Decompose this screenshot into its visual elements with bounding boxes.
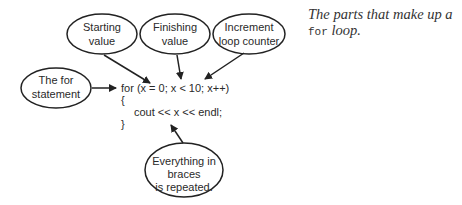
bubble-starting-value: Starting value [67, 14, 137, 54]
code-line-open-brace: { [121, 94, 125, 106]
figure-caption: The parts that make up a for loop. [308, 6, 458, 40]
bubble-label: value [89, 35, 115, 47]
bubble-label: loop counter [219, 35, 280, 47]
bubble-increment: Increment loop counter [213, 14, 285, 54]
bubble-label: Starting [83, 21, 121, 33]
bubble-label: Finishing [153, 21, 197, 33]
bubble-label: The for [39, 74, 74, 86]
bubble-label: braces [167, 168, 201, 180]
code-line-close-brace: } [121, 118, 125, 130]
bubble-finishing-value: Finishing value [140, 14, 210, 54]
bubble-for-statement: The for statement [21, 68, 91, 108]
arrow-braces [171, 125, 183, 143]
caption-suffix: loop. [328, 22, 361, 38]
arrow-increment [205, 53, 244, 79]
bubble-label: is repeated. [155, 181, 212, 193]
caption-text: The parts that make up a [308, 6, 453, 22]
bubble-label: value [162, 35, 188, 47]
code-line-for: for (x = 0; x < 10; x++) [121, 82, 229, 94]
code-block: for (x = 0; x < 10; x++) { cout << x << … [121, 82, 229, 130]
bubble-everything-in-braces: Everything in braces is repeated. [145, 143, 223, 197]
arrow-finishing [177, 55, 181, 79]
bubble-label: Everything in [152, 155, 216, 167]
bubble-label: statement [32, 88, 80, 100]
bubble-label: Increment [225, 21, 274, 33]
arrow-starting [104, 55, 150, 83]
caption-keyword: for [308, 26, 328, 38]
code-line-cout: cout << x << endl; [134, 106, 222, 118]
